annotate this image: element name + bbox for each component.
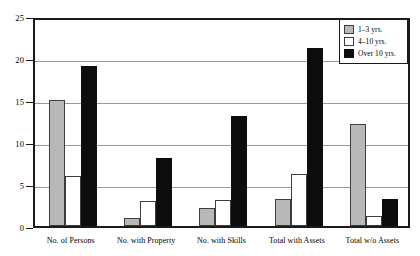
legend-item-label: Over 10 yrs. bbox=[358, 49, 396, 58]
bar bbox=[291, 174, 307, 226]
bar bbox=[275, 199, 291, 226]
y-axis-tick-label: 0 bbox=[0, 224, 24, 233]
bar bbox=[124, 218, 140, 226]
x-axis: No. of PersonsNo. with PropertyNo. with … bbox=[0, 236, 420, 252]
y-axis-tick-mark bbox=[26, 186, 33, 187]
y-axis-tick-mark bbox=[26, 144, 33, 145]
x-axis-tick-label: No. with Property bbox=[108, 236, 183, 246]
bar-group bbox=[110, 20, 185, 226]
bar bbox=[140, 201, 156, 226]
bar-chart: 2520151050 No. of PersonsNo. with Proper… bbox=[0, 0, 420, 256]
legend-item: 1–3 yrs. bbox=[344, 24, 403, 35]
y-axis-tick-label: 20 bbox=[0, 56, 24, 65]
legend-swatch-icon bbox=[344, 25, 354, 34]
x-axis-tick-label: Total w/o Assets bbox=[335, 236, 410, 246]
x-axis-tick-label: Total with Assets bbox=[259, 236, 334, 246]
bar bbox=[215, 200, 231, 226]
x-axis-tick-label: No. with Skills bbox=[184, 236, 259, 246]
bar bbox=[366, 216, 382, 226]
bar bbox=[156, 158, 172, 226]
y-axis-tick-label: 25 bbox=[0, 14, 24, 23]
legend-item: Over 10 yrs. bbox=[344, 48, 403, 59]
y-axis-tick-label: 15 bbox=[0, 98, 24, 107]
y-axis-tick-label: 10 bbox=[0, 140, 24, 149]
bar bbox=[350, 124, 366, 226]
bar bbox=[231, 116, 247, 226]
bar-group bbox=[261, 20, 336, 226]
bar bbox=[307, 48, 323, 226]
legend-item-label: 4–10 yrs. bbox=[358, 37, 386, 46]
bar-group bbox=[186, 20, 261, 226]
legend-swatch-icon bbox=[344, 37, 354, 46]
y-axis-tick-mark bbox=[26, 18, 33, 19]
legend-item: 4–10 yrs. bbox=[344, 36, 403, 47]
legend-swatch-icon bbox=[344, 49, 354, 58]
x-axis-tick-label: No. of Persons bbox=[33, 236, 108, 246]
y-axis-tick-label: 5 bbox=[0, 182, 24, 191]
legend: 1–3 yrs.4–10 yrs.Over 10 yrs. bbox=[339, 19, 408, 64]
bar bbox=[199, 208, 215, 226]
bar bbox=[65, 176, 81, 226]
legend-item-label: 1–3 yrs. bbox=[358, 25, 383, 34]
bar bbox=[81, 66, 97, 226]
bar bbox=[49, 100, 65, 226]
y-axis-tick-mark bbox=[26, 102, 33, 103]
y-axis-tick-mark bbox=[26, 60, 33, 61]
bar bbox=[382, 199, 398, 226]
y-axis-tick-mark bbox=[26, 228, 33, 229]
bar-group bbox=[35, 20, 110, 226]
